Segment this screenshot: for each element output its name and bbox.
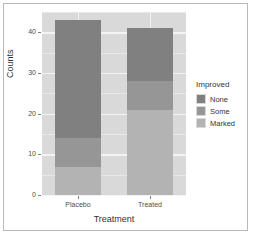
y-tick-mark xyxy=(38,154,41,155)
bar-segment-placebo-some xyxy=(55,138,101,166)
legend-title: Improved xyxy=(196,80,252,89)
y-tick-label: 30 xyxy=(28,69,36,77)
y-axis-title: Counts xyxy=(5,49,15,78)
legend-items: NoneSomeMarked xyxy=(196,93,252,129)
legend-swatch-marked xyxy=(197,119,205,127)
legend-key xyxy=(196,94,206,104)
chart-figure: 010203040 Counts PlaceboTreated Treatmen… xyxy=(0,0,253,236)
legend: Improved NoneSomeMarked xyxy=(196,80,252,129)
gridline-major xyxy=(42,195,186,196)
x-tick-label: Treated xyxy=(120,201,180,209)
bar-segment-treated-marked xyxy=(127,110,173,195)
x-axis-title: Treatment xyxy=(42,214,186,224)
x-tick-label: Placebo xyxy=(48,201,108,209)
legend-label: Some xyxy=(210,107,230,116)
legend-label: Marked xyxy=(210,119,235,128)
bar-segment-treated-none xyxy=(127,28,173,81)
legend-item-none: None xyxy=(196,93,252,105)
legend-item-some: Some xyxy=(196,105,252,117)
bar-placebo xyxy=(55,12,101,195)
x-tick-mark xyxy=(150,196,151,199)
y-tick-mark xyxy=(38,195,41,196)
y-tick-mark xyxy=(38,114,41,115)
y-tick-label: 10 xyxy=(28,150,36,158)
bar-segment-placebo-marked xyxy=(55,167,101,195)
x-tick-mark xyxy=(78,196,79,199)
bar-segment-treated-some xyxy=(127,81,173,109)
y-tick-mark xyxy=(38,32,41,33)
legend-label: None xyxy=(210,95,228,104)
y-tick-label: 20 xyxy=(28,110,36,118)
bar-segment-placebo-none xyxy=(55,20,101,138)
y-tick-label: 0 xyxy=(32,191,36,199)
bar-treated xyxy=(127,12,173,195)
y-tick-label: 40 xyxy=(28,28,36,36)
plot-panel xyxy=(42,12,186,195)
legend-item-marked: Marked xyxy=(196,117,252,129)
legend-key xyxy=(196,118,206,128)
legend-swatch-some xyxy=(197,107,205,115)
legend-key xyxy=(196,106,206,116)
legend-swatch-none xyxy=(197,95,205,103)
y-tick-mark xyxy=(38,73,41,74)
